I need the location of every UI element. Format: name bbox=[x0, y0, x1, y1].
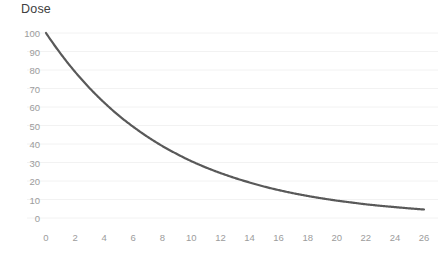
y-axis-tick-label: 40 bbox=[4, 139, 40, 150]
x-axis-tick-label: 18 bbox=[302, 232, 313, 243]
x-axis-tick-label: 2 bbox=[72, 232, 77, 243]
y-axis-labels: 0102030405060708090100 bbox=[0, 0, 40, 261]
y-axis-tick-label: 20 bbox=[4, 176, 40, 187]
x-axis-tick-label: 0 bbox=[43, 232, 48, 243]
data-series-group bbox=[46, 33, 424, 209]
y-axis-tick-label: 100 bbox=[4, 28, 40, 39]
y-axis-tick-label: 80 bbox=[4, 65, 40, 76]
plot-area bbox=[0, 0, 438, 261]
x-axis-tick-label: 4 bbox=[101, 232, 106, 243]
x-axis-tick-label: 26 bbox=[419, 232, 430, 243]
x-axis-tick-label: 24 bbox=[390, 232, 401, 243]
chart-container: Dose 0102030405060708090100 024681012141… bbox=[0, 0, 438, 261]
x-axis-tick-label: 14 bbox=[244, 232, 255, 243]
y-axis-tick-label: 70 bbox=[4, 83, 40, 94]
y-axis-tick-label: 50 bbox=[4, 120, 40, 131]
y-axis-tick-label: 0 bbox=[4, 213, 40, 224]
series-line bbox=[46, 33, 424, 209]
x-axis-tick-label: 6 bbox=[131, 232, 136, 243]
x-axis-tick-label: 10 bbox=[186, 232, 197, 243]
x-axis-tick-label: 16 bbox=[273, 232, 284, 243]
gridlines-group bbox=[27, 33, 438, 218]
x-axis-tick-label: 8 bbox=[160, 232, 165, 243]
y-axis-tick-label: 10 bbox=[4, 194, 40, 205]
y-axis-tick-label: 90 bbox=[4, 46, 40, 57]
x-axis-labels: 02468101214161820222426 bbox=[0, 232, 438, 252]
y-axis-tick-label: 30 bbox=[4, 157, 40, 168]
x-axis-tick-label: 20 bbox=[331, 232, 342, 243]
x-axis-tick-label: 22 bbox=[361, 232, 372, 243]
x-axis-tick-label: 12 bbox=[215, 232, 226, 243]
y-axis-tick-label: 60 bbox=[4, 102, 40, 113]
